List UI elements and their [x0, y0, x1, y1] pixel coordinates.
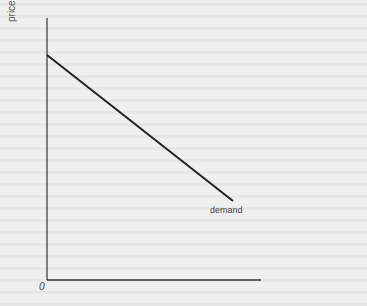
origin-label: 0 — [39, 281, 45, 292]
demand-chart — [0, 0, 367, 306]
demand-curve-label: demand — [210, 205, 243, 215]
y-axis-label: price — [6, 0, 17, 22]
demand-curve — [47, 55, 233, 201]
